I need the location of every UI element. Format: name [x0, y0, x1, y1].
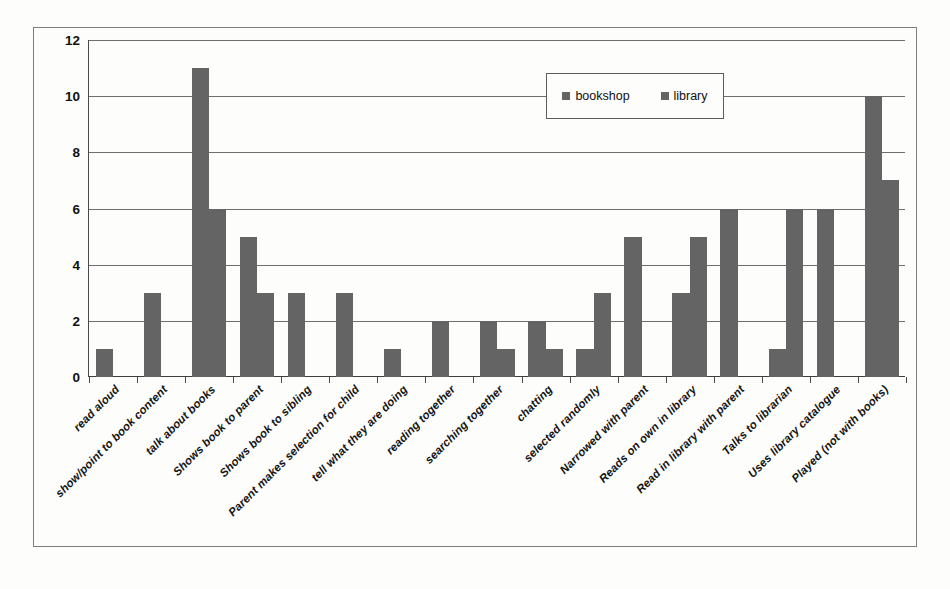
bar-library — [209, 209, 226, 378]
legend-label-bookshop: bookshop — [575, 89, 629, 103]
legend-swatch-icon — [562, 92, 570, 100]
y-axis-tick-label: 2 — [72, 313, 80, 328]
bar-group — [96, 40, 131, 377]
legend-entry-library: library — [661, 89, 708, 103]
bar-bookshop — [96, 349, 113, 377]
bar-bookshop — [192, 68, 209, 377]
bar-bookshop — [336, 293, 353, 377]
bar-library — [497, 349, 514, 377]
chart-legend: bookshop library — [546, 73, 724, 119]
bar-group — [480, 40, 515, 377]
x-axis-tick — [762, 377, 763, 383]
x-axis-tick — [473, 377, 474, 383]
bar-library — [786, 209, 803, 378]
x-axis-tick — [666, 377, 667, 383]
bar-bookshop — [144, 293, 161, 377]
bar-group — [817, 40, 852, 377]
bar-library — [882, 180, 899, 377]
x-axis-tick — [377, 377, 378, 383]
bar-group — [720, 40, 755, 377]
x-axis-tick — [522, 377, 523, 383]
bar-bookshop — [288, 293, 305, 377]
bar-group — [192, 40, 227, 377]
legend-label-library: library — [674, 89, 708, 103]
bar-bookshop — [576, 349, 593, 377]
bar-bookshop — [528, 321, 545, 377]
bar-bookshop — [480, 321, 497, 377]
y-axis-tick-label: 10 — [65, 89, 80, 104]
bar-library — [546, 349, 563, 377]
bar-bookshop — [865, 96, 882, 377]
x-axis-tick — [570, 377, 571, 383]
bar-group — [384, 40, 419, 377]
bar-bookshop — [769, 349, 786, 377]
x-axis-tick — [714, 377, 715, 383]
y-axis-tick-label: 4 — [72, 257, 80, 272]
bar-library — [257, 293, 274, 377]
plot-inner: 024681012 — [88, 40, 905, 377]
x-axis-tick — [89, 377, 90, 383]
plot-area: 024681012 — [88, 40, 905, 377]
x-axis-tick — [329, 377, 330, 383]
bar-bookshop — [384, 349, 401, 377]
x-axis-tick — [858, 377, 859, 383]
legend-swatch-icon — [661, 92, 669, 100]
bar-group — [432, 40, 467, 377]
chart-page: 024681012 read aloudshow/point to book c… — [0, 0, 950, 589]
y-axis-tick-label: 8 — [72, 145, 80, 160]
bar-bookshop — [817, 209, 834, 378]
x-axis-tick — [185, 377, 186, 383]
x-axis-tick — [425, 377, 426, 383]
bar-group — [769, 40, 804, 377]
bar-library — [690, 237, 707, 377]
bar-group — [144, 40, 179, 377]
x-axis-tick — [233, 377, 234, 383]
bar-bookshop — [240, 237, 257, 377]
x-axis-tick — [810, 377, 811, 383]
bar-group — [865, 40, 900, 377]
bar-group — [336, 40, 371, 377]
y-axis-tick-label: 0 — [72, 370, 80, 385]
bars-layer — [89, 40, 905, 377]
x-axis-tick — [906, 377, 907, 383]
bar-bookshop — [624, 237, 641, 377]
bar-group — [240, 40, 275, 377]
x-axis-tick — [137, 377, 138, 383]
y-axis-tick-label: 6 — [72, 201, 80, 216]
x-axis-tick — [618, 377, 619, 383]
x-axis-tick — [281, 377, 282, 383]
bar-library — [594, 293, 611, 377]
bar-bookshop — [720, 209, 737, 378]
bar-group — [288, 40, 323, 377]
legend-entry-bookshop: bookshop — [562, 89, 629, 103]
bar-bookshop — [672, 293, 689, 377]
bar-bookshop — [432, 321, 449, 377]
y-axis-tick-label: 12 — [65, 33, 80, 48]
